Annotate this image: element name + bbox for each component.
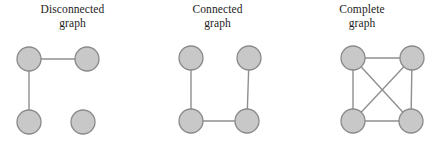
graph-types-figure: Disconnected graph Connected graph Compl… (0, 0, 434, 142)
panel-title-connected: Connected graph (145, 3, 290, 30)
panel-disconnected: Disconnected graph (0, 0, 145, 142)
panel-title-disconnected: Disconnected graph (0, 3, 145, 30)
panel-title-complete: Complete graph (290, 3, 434, 30)
panel-connected: Connected graph (145, 0, 290, 142)
panel-complete: Complete graph (290, 0, 434, 142)
